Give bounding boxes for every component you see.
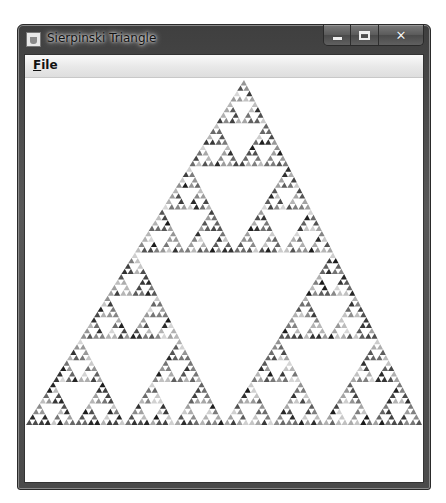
menu-file-mnemonic: F [33,58,41,72]
java-cup-icon[interactable] [26,32,41,47]
menu-file[interactable]: File [29,57,62,73]
caption-buttons: ✕ [323,25,424,46]
minimize-icon [333,37,342,40]
maximize-button[interactable] [350,25,378,45]
menu-bar: File [25,55,423,78]
drawing-canvas [25,78,423,482]
minimize-button[interactable] [324,25,350,45]
menu-file-label-rest: ile [41,58,57,72]
sierpinski-triangle [25,78,423,482]
app-window: Sierpinski Triangle ✕ File [17,24,431,490]
title-bar[interactable]: Sierpinski Triangle ✕ [18,25,430,54]
window-title: Sierpinski Triangle [47,31,156,45]
close-icon: ✕ [396,29,407,42]
close-button[interactable]: ✕ [378,25,423,45]
maximize-icon [359,31,370,40]
client-area: File [24,54,424,483]
